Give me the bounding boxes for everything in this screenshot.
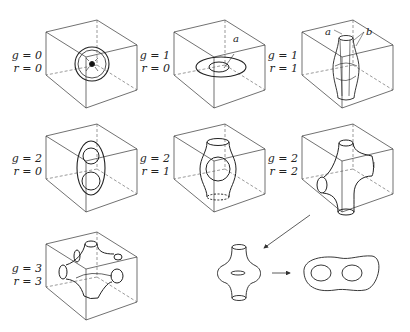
ends-label: r = 1: [258, 62, 298, 75]
panel-g2r1: [174, 124, 265, 212]
genus-label: g = 0: [2, 49, 42, 62]
double-hole-outline-icon: [304, 256, 379, 291]
ends-label: r = 0: [2, 165, 42, 178]
genus-label: g = 1: [130, 49, 170, 62]
panel-g1r0: [174, 20, 265, 108]
double-torus-icon: [77, 141, 105, 195]
diagram-canvas: [0, 0, 410, 332]
sphere-icon: [75, 47, 109, 81]
panel-g2r2: [302, 124, 393, 215]
genus-label: g = 2: [2, 152, 42, 165]
collared-tube-icon: [217, 245, 260, 301]
annotation-a-tube: a: [325, 26, 331, 37]
panel-g0r0: [46, 20, 137, 108]
genus-label: g = 2: [258, 152, 298, 165]
label-g0r0: g = 0 r = 0: [2, 49, 42, 75]
torus-icon: [196, 54, 246, 77]
label-g1r0: g = 1 r = 0: [130, 49, 170, 75]
ends-label: r = 3: [2, 275, 42, 288]
tube-with-hole-icon: [200, 139, 236, 201]
genus-label: g = 2: [130, 152, 170, 165]
label-g2r0: g = 2 r = 0: [2, 152, 42, 178]
panel-g1r1: [302, 20, 393, 108]
label-g3r3: g = 3 r = 3: [2, 262, 42, 288]
genus-label: g = 3: [2, 262, 42, 275]
label-g2r1: g = 2 r = 1: [130, 152, 170, 178]
genus-label: g = 1: [258, 49, 298, 62]
annotation-a-torus: a: [233, 33, 239, 44]
annotation-b-tube: b: [366, 26, 372, 37]
label-g2r2: g = 2 r = 2: [258, 152, 298, 178]
tube-with-handle-icon: [333, 30, 364, 100]
ends-label: r = 2: [258, 165, 298, 178]
ends-label: r = 1: [130, 165, 170, 178]
panel-g2r0: [46, 124, 137, 212]
ends-label: r = 0: [130, 62, 170, 75]
label-g1r1: g = 1 r = 1: [258, 49, 298, 75]
transition-arrow-diagonal: [264, 215, 310, 248]
ends-label: r = 0: [2, 62, 42, 75]
six-armed-tube-icon: [59, 241, 123, 299]
panel-g3r3: [46, 232, 137, 320]
